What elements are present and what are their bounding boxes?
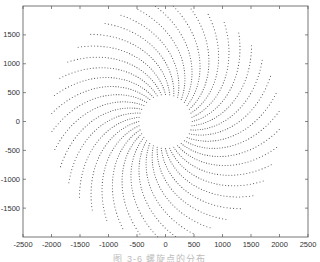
figure-caption: 图 3-6 螺旋点的分布 — [0, 252, 320, 262]
y-axis-ticks: -1500-1000-500050010001500 — [1, 30, 308, 212]
x-axis-ticks: -2500-2000-1500-1000-5000500100015002000… — [13, 6, 316, 249]
scatter-points — [51, 6, 280, 238]
y-tick-label: -1500 — [1, 204, 20, 213]
x-tick-label: 500 — [188, 240, 201, 249]
y-tick-label: 500 — [7, 88, 20, 97]
x-tick-label: -500 — [129, 240, 144, 249]
y-tick-label: -500 — [5, 146, 20, 155]
axes-box — [23, 6, 308, 237]
y-tick-label: 1500 — [3, 30, 20, 39]
x-tick-label: 0 — [163, 240, 167, 249]
x-tick-label: -2000 — [42, 240, 61, 249]
x-tick-label: -1000 — [99, 240, 118, 249]
y-tick-label: 0 — [16, 117, 20, 126]
x-tick-label: 1000 — [214, 240, 231, 249]
x-tick-label: 1500 — [243, 240, 260, 249]
x-tick-label: -1500 — [70, 240, 89, 249]
x-tick-label: -2500 — [13, 240, 32, 249]
x-tick-label: 2000 — [271, 240, 288, 249]
y-tick-label: -1000 — [1, 175, 20, 184]
x-tick-label: 2500 — [300, 240, 317, 249]
y-tick-label: 1000 — [3, 59, 20, 68]
